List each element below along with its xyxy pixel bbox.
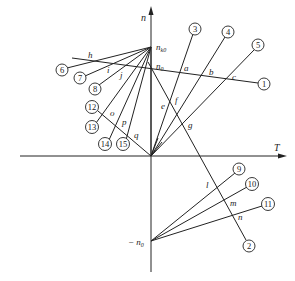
svg-text:5: 5 — [256, 40, 260, 50]
diagram-canvas: n T nk0 n0 − n0 1 2 3 4 5 6 7 8 9 10 11 … — [0, 0, 295, 281]
curve-marker-11: 11 — [262, 198, 275, 211]
svg-text:8: 8 — [93, 84, 97, 94]
n-axis-arrow-icon — [149, 6, 154, 15]
svg-text:6: 6 — [60, 65, 64, 75]
curve-marker-15: 15 — [117, 138, 130, 151]
intersection-label-q: q — [134, 130, 139, 140]
point-label-neg-n-0: − n0 — [128, 237, 144, 248]
svg-text:9: 9 — [237, 164, 241, 174]
curve-2 — [148, 62, 246, 240]
curve-11 — [151, 206, 262, 241]
svg-text:14: 14 — [101, 139, 110, 149]
intersection-label-n: n — [238, 212, 243, 222]
svg-text:2: 2 — [247, 241, 251, 251]
curve-marker-3: 3 — [189, 23, 201, 35]
intersection-label-b: b — [209, 67, 214, 77]
curve-marker-13: 13 — [86, 121, 99, 134]
intersection-label-c: c — [232, 72, 236, 82]
intersection-label-g: g — [188, 120, 193, 130]
svg-text:3: 3 — [193, 24, 197, 34]
intersection-label-m: m — [230, 198, 237, 208]
n-axis-label: n — [141, 12, 146, 23]
curve-9 — [151, 173, 235, 241]
svg-text:1: 1 — [262, 79, 266, 89]
svg-text:12: 12 — [88, 102, 97, 112]
curve-4 — [151, 37, 225, 156]
intersection-label-l: l — [206, 180, 209, 190]
intersection-label-j: j — [119, 70, 123, 80]
curve-marker-4: 4 — [222, 26, 234, 38]
intersection-label-f: f — [175, 95, 179, 105]
curve-marker-14: 14 — [99, 138, 112, 151]
svg-text:13: 13 — [88, 122, 97, 132]
curve-3 — [151, 34, 193, 156]
curve-marker-7: 7 — [74, 72, 86, 84]
curve-marker-6: 6 — [56, 64, 68, 76]
intersection-label-p: p — [121, 117, 127, 127]
svg-text:7: 7 — [78, 73, 82, 83]
curve-1 — [72, 58, 258, 83]
t-axis-arrow-icon — [278, 154, 287, 159]
curve-marker-9: 9 — [233, 163, 245, 175]
svg-text:10: 10 — [248, 179, 257, 189]
point-label-n-k0: nk0 — [156, 42, 166, 53]
svg-text:15: 15 — [119, 139, 128, 149]
t-axis-label: T — [274, 142, 281, 153]
curve-marker-10: 10 — [246, 178, 259, 191]
curve-marker-1: 1 — [258, 78, 270, 90]
svg-text:11: 11 — [264, 199, 272, 209]
curve-marker-2: 2 — [243, 240, 255, 252]
curve-marker-5: 5 — [252, 39, 264, 51]
intersection-label-a: a — [184, 63, 189, 73]
intersection-label-h: h — [88, 50, 93, 60]
intersection-label-i: i — [107, 65, 110, 75]
intersection-label-o: o — [110, 108, 115, 118]
curve-marker-12: 12 — [86, 101, 99, 114]
intersection-label-e: e — [161, 101, 165, 111]
curve-marker-8: 8 — [89, 83, 101, 95]
curve-5 — [151, 50, 254, 156]
origin-fan-2 — [151, 142, 162, 156]
curve-10 — [151, 187, 247, 241]
